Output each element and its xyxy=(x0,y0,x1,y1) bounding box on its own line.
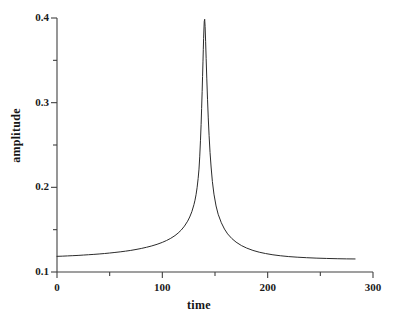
plot-canvas xyxy=(0,0,398,323)
y-axis-label: amplitude xyxy=(9,96,24,176)
x-axis-label: time xyxy=(0,298,398,313)
resonance-amplitude-chart: 0.10.20.30.40100200300 amplitude time xyxy=(0,0,398,323)
x-tick-label: 0 xyxy=(32,282,82,293)
x-tick-label: 100 xyxy=(137,282,187,293)
amplitude-curve xyxy=(57,19,355,259)
y-tick-label: 0.4 xyxy=(5,12,49,23)
y-tick-marks xyxy=(51,18,57,272)
y-tick-label: 0.2 xyxy=(5,181,49,192)
x-tick-label: 300 xyxy=(348,282,398,293)
y-tick-label: 0.1 xyxy=(5,266,49,277)
x-tick-label: 200 xyxy=(243,282,293,293)
axis-lines xyxy=(57,18,373,272)
x-tick-marks xyxy=(57,272,373,278)
